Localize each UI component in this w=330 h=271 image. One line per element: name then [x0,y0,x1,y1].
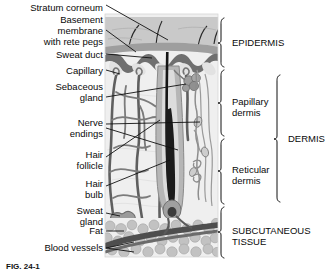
label-epidermis: EPIDERMIS [232,38,284,49]
label-reticular-dermis-line1: Reticular [232,165,270,176]
bracket-subcutaneous-tissue [218,207,224,258]
label-nerve-endings-line2: endings [0,129,103,140]
label-basement-membrane-line1: Basement [0,15,103,26]
label-subcutaneous-tissue-line2: TISSUE [232,237,266,248]
label-papillary-dermis-line2: dermis [232,108,261,119]
skin-cross-section-figure: Stratum corneum Basement membrane with r… [0,0,330,271]
label-subcutaneous-tissue-line1: SUBCUTANEOUS [232,226,310,237]
label-sebaceous-gland-line1: Sebaceous [0,82,103,93]
label-basement-membrane-line3: with rete pegs [0,37,103,48]
label-reticular-dermis-line2: dermis [232,176,261,187]
figure-caption: FIG. 24-1 [6,262,40,271]
label-basement-membrane-line2: membrane [0,26,103,37]
label-sebaceous-gland-line2: gland [0,93,103,104]
label-capillary: Capillary [0,66,103,77]
label-hair-bulb-line2: bulb [0,190,103,201]
label-sweat-duct: Sweat duct [0,50,103,61]
hair-papilla [168,207,177,217]
label-papillary-dermis-line1: Papillary [232,97,268,108]
bracket-dermis [274,75,280,202]
label-hair-follicle-line1: Hair [0,150,103,161]
label-fat: Fat [0,226,103,237]
label-dermis: DERMIS [288,134,325,145]
label-sweat-gland-line1: Sweat [0,206,103,217]
label-stratum-corneum: Stratum corneum [0,3,103,14]
brackets-group [218,18,280,258]
bracket-epidermis [218,18,224,67]
label-nerve-endings-line1: Nerve [0,118,103,129]
label-blood-vessels: Blood vessels [0,243,103,254]
skin-block [102,14,222,258]
bracket-reticular-dermis [218,139,224,204]
label-hair-bulb-line1: Hair [0,179,103,190]
bracket-papillary-dermis [218,70,224,136]
label-hair-follicle-line2: follicle [0,161,103,172]
